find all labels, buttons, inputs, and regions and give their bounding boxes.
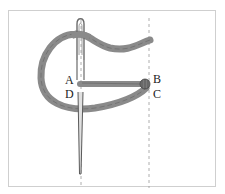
label-d: D — [65, 88, 74, 100]
thread-loop — [41, 34, 150, 109]
label-a: A — [65, 74, 74, 86]
label-c: C — [153, 88, 161, 100]
label-b: B — [153, 73, 161, 85]
stitch-diagram — [0, 0, 225, 194]
couched-thread — [80, 79, 150, 89]
needle-icon — [77, 19, 84, 174]
